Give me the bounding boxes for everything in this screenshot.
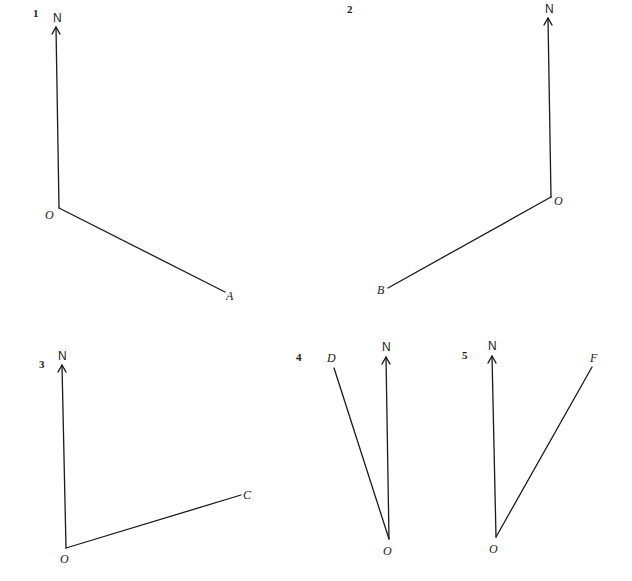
bearing-line-c xyxy=(66,495,241,548)
north-line xyxy=(548,18,551,197)
origin-label: O xyxy=(60,552,69,566)
point-label-f: F xyxy=(589,351,598,365)
origin-label: O xyxy=(489,542,498,556)
diagram-1: 1 N O A xyxy=(33,7,234,303)
north-line xyxy=(56,27,59,208)
diagram-number: 4 xyxy=(296,351,302,363)
bearing-line-f xyxy=(496,367,592,537)
origin-label: O xyxy=(383,544,392,558)
bearings-diagram-canvas: 1 N O A 2 N O B 3 N O C 4 N D O 5 xyxy=(0,0,632,581)
point-label-a: A xyxy=(225,289,234,303)
bearing-line-a xyxy=(59,208,225,292)
diagram-number: 1 xyxy=(33,7,39,19)
point-label-c: C xyxy=(243,488,252,502)
diagram-number: 2 xyxy=(347,3,353,15)
diagram-2: 2 N O B xyxy=(347,2,563,297)
north-line xyxy=(386,357,389,539)
point-label-b: B xyxy=(377,283,385,297)
point-label-d: D xyxy=(326,351,336,365)
north-line xyxy=(492,356,496,537)
north-label: N xyxy=(53,11,62,25)
diagram-3: 3 N O C xyxy=(39,349,252,566)
diagram-number: 3 xyxy=(39,358,45,370)
diagram-number: 5 xyxy=(462,349,468,361)
diagram-5: 5 N F O xyxy=(462,339,598,556)
bearing-line-b xyxy=(388,197,551,288)
origin-label: O xyxy=(45,208,54,222)
bearing-line-d xyxy=(334,368,389,539)
north-label: N xyxy=(58,349,67,363)
origin-label: O xyxy=(554,194,563,208)
north-label: N xyxy=(488,339,497,353)
diagram-4: 4 N D O xyxy=(296,340,392,558)
north-label: N xyxy=(382,340,391,354)
north-label: N xyxy=(545,2,554,16)
north-line xyxy=(62,365,66,548)
